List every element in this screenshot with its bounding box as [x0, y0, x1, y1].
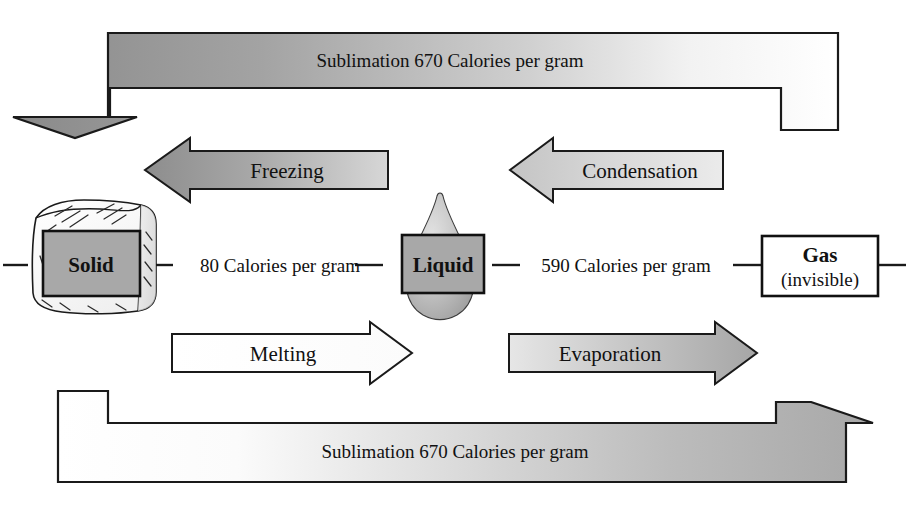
- solid-liquid-label: 80 Calories per gram: [200, 255, 360, 276]
- liquid-gas-label: 590 Calories per gram: [541, 255, 711, 276]
- condensation-arrow: Condensation: [510, 138, 723, 202]
- sublimation-top-arrow: Sublimation 670 Calories per gram: [13, 33, 838, 138]
- sublimation-top-label: Sublimation 670 Calories per gram: [316, 50, 583, 71]
- solid-state: Solid: [32, 200, 156, 314]
- liquid-state: Liquid: [402, 193, 484, 320]
- liquid-gas-connector: 590 Calories per gram: [541, 255, 711, 276]
- solid-liquid-connector: 80 Calories per gram: [200, 255, 360, 276]
- melting-arrow: Melting: [172, 322, 412, 384]
- solid-label: Solid: [68, 253, 114, 277]
- evaporation-arrow: Evaporation: [509, 322, 757, 384]
- evaporation-label: Evaporation: [559, 342, 662, 366]
- liquid-label: Liquid: [413, 253, 474, 277]
- diagram-canvas: Sublimation 670 Calories per gram Freezi…: [0, 0, 921, 508]
- gas-label: Gas: [802, 243, 837, 267]
- gas-sublabel: (invisible): [781, 269, 859, 291]
- condensation-label: Condensation: [582, 159, 698, 183]
- freezing-label: Freezing: [250, 159, 324, 183]
- phase-change-diagram: Sublimation 670 Calories per gram Freezi…: [0, 0, 921, 508]
- melting-label: Melting: [250, 342, 317, 366]
- gas-state: Gas (invisible): [762, 236, 878, 296]
- sublimation-bottom-arrow: Sublimation 670 Calories per gram: [58, 391, 873, 482]
- sublimation-bottom-label: Sublimation 670 Calories per gram: [321, 441, 588, 462]
- freezing-arrow: Freezing: [145, 138, 388, 202]
